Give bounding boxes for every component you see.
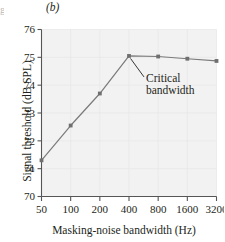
data-point-marker: [98, 92, 102, 96]
y-axis-ticks: [38, 30, 42, 197]
x-tick-label: 1600: [176, 203, 199, 215]
x-tick-labels: 5010020040080016003200: [36, 203, 224, 215]
x-tick-label: 200: [92, 203, 109, 215]
x-tick-label: 800: [150, 203, 167, 215]
x-axis-ticks: [42, 197, 217, 202]
line-chart: 70717273747576 5010020040080016003200 Cr…: [0, 0, 224, 242]
data-point-marker: [156, 55, 160, 59]
data-point-marker: [69, 124, 73, 128]
y-tick-label: 72: [24, 135, 35, 147]
y-tick-labels: 70717273747576: [24, 23, 36, 202]
x-tick-label: 3200: [206, 203, 225, 215]
data-point-marker: [127, 54, 131, 58]
annotation-text-line-2: bandwidth: [146, 84, 195, 96]
y-tick-label: 76: [24, 23, 36, 35]
y-tick-label: 71: [24, 162, 35, 174]
x-tick-label: 50: [36, 203, 48, 215]
y-tick-label: 73: [24, 107, 36, 119]
x-tick-label: 100: [62, 203, 79, 215]
y-tick-label: 70: [24, 190, 36, 202]
y-tick-label: 74: [24, 79, 36, 91]
figure-panel-b: g (b) Signal threshold (dB SPL) Masking-…: [0, 0, 224, 242]
annotation-text-line-1: Critical: [146, 72, 181, 84]
data-point-marker: [215, 59, 219, 63]
y-tick-label: 75: [24, 51, 36, 63]
data-point-marker: [185, 57, 189, 61]
x-tick-label: 400: [121, 203, 138, 215]
data-point-marker: [40, 158, 44, 162]
